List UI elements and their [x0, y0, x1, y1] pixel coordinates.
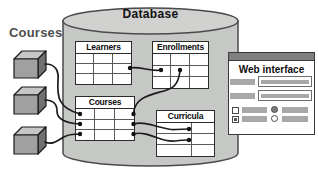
- relation-dots: [78, 66, 191, 142]
- course-cube-icon-1: [14, 51, 46, 78]
- wire-enrollments-courses: [134, 71, 181, 113]
- course-cube-icon-3: [14, 127, 46, 154]
- diagram-canvas: Database Courses Learners Enrollments Co…: [0, 0, 318, 173]
- relation-wires: [45, 64, 189, 143]
- course-cube-icon-2: [14, 87, 46, 114]
- wire-courses-curricula-2: [134, 133, 190, 141]
- wires-and-cubes-layer: [0, 0, 318, 173]
- wire-cube1-courses: [45, 64, 80, 114]
- wire-cube3-courses: [45, 134, 80, 143]
- wire-courses-curricula-1: [134, 123, 190, 130]
- wire-learners-enrollments: [130, 68, 161, 71]
